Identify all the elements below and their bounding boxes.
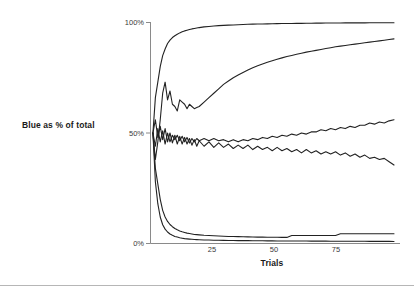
series-line-run-3-hovers-rising xyxy=(153,120,394,147)
axis-lines xyxy=(151,22,401,244)
y-tick-label-50: 50% xyxy=(108,129,144,138)
chart-figure: Blue as % of total 100% 50% 0% 25 50 75 … xyxy=(0,0,414,292)
series-line-run-5-declines xyxy=(153,133,394,237)
x-tick-label-75: 75 xyxy=(321,245,351,254)
y-tick-label-0: 0% xyxy=(108,239,144,248)
data-series-group xyxy=(153,23,394,242)
footer-divider xyxy=(0,285,414,286)
x-tick-label-50: 50 xyxy=(259,245,289,254)
y-tick-label-100: 100% xyxy=(108,18,144,27)
y-axis-title: Blue as % of total xyxy=(22,120,122,131)
axis-ticks xyxy=(146,23,151,244)
series-line-run-1-converges-high xyxy=(153,23,394,133)
x-tick-label-25: 25 xyxy=(197,245,227,254)
x-axis-title: Trials xyxy=(232,258,312,268)
